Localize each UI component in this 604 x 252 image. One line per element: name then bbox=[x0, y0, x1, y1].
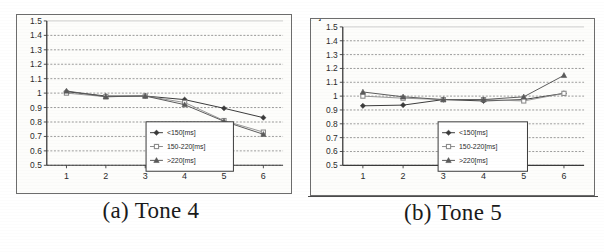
chart-b: 0.50.60.70.80.911.11.21.31.41.5123456F0[… bbox=[311, 19, 594, 195]
chart-a: 0.50.60.70.80.911.11.21.31.41.5123456F0 … bbox=[17, 15, 291, 193]
svg-text:150-220[ms]: 150-220[ms] bbox=[167, 143, 206, 151]
svg-text:1.1: 1.1 bbox=[326, 77, 338, 87]
svg-text:0.9: 0.9 bbox=[326, 105, 338, 115]
svg-text:>220[ms]: >220[ms] bbox=[459, 157, 488, 165]
svg-text:0.5: 0.5 bbox=[326, 160, 338, 170]
svg-text:1: 1 bbox=[37, 88, 42, 98]
svg-text:1: 1 bbox=[333, 91, 338, 101]
svg-text:0.9: 0.9 bbox=[30, 103, 42, 113]
chart-plot-area-b: 0.50.60.70.80.911.11.21.31.41.5123456F0[… bbox=[310, 18, 595, 196]
svg-text:1.4: 1.4 bbox=[326, 36, 338, 46]
svg-text:>220[ms]: >220[ms] bbox=[167, 157, 196, 165]
figure-panel-a: 0.50.60.70.80.911.11.21.31.41.5123456F0 … bbox=[0, 0, 302, 252]
svg-text:6: 6 bbox=[561, 171, 566, 181]
svg-text:<150[ms]: <150[ms] bbox=[459, 129, 488, 137]
svg-text:0.8: 0.8 bbox=[30, 117, 42, 127]
svg-text:4: 4 bbox=[481, 171, 486, 181]
figure-panel-b: 0.50.60.70.80.911.11.21.31.41.5123456F0[… bbox=[302, 0, 604, 252]
svg-text:6: 6 bbox=[261, 171, 266, 181]
svg-text:1.3: 1.3 bbox=[30, 45, 42, 55]
svg-text:1: 1 bbox=[64, 171, 69, 181]
panel-a-caption: (a) Tone 4 bbox=[0, 198, 302, 224]
svg-text:0.7: 0.7 bbox=[30, 131, 42, 141]
svg-text:1.3: 1.3 bbox=[326, 50, 338, 60]
svg-text:1.2: 1.2 bbox=[30, 59, 42, 69]
svg-text:5: 5 bbox=[521, 171, 526, 181]
svg-text:4: 4 bbox=[182, 171, 187, 181]
svg-text:3: 3 bbox=[143, 171, 148, 181]
svg-text:0.7: 0.7 bbox=[326, 133, 338, 143]
svg-text:5: 5 bbox=[221, 171, 226, 181]
svg-text:F0 Normalized: F0 Normalized bbox=[17, 15, 39, 16]
svg-text:0.6: 0.6 bbox=[30, 146, 42, 156]
svg-text:F0[Hz]: F0[Hz] bbox=[311, 19, 321, 21]
svg-text:0.8: 0.8 bbox=[326, 119, 338, 129]
svg-text:1.4: 1.4 bbox=[30, 30, 42, 40]
svg-text:150-220[ms]: 150-220[ms] bbox=[459, 143, 498, 151]
svg-text:2: 2 bbox=[401, 171, 406, 181]
svg-text:1.5: 1.5 bbox=[326, 22, 338, 32]
svg-text:1: 1 bbox=[360, 171, 365, 181]
svg-text:1.1: 1.1 bbox=[30, 74, 42, 84]
figure-container: 0.50.60.70.80.911.11.21.31.41.5123456F0 … bbox=[0, 0, 604, 252]
svg-text:0.6: 0.6 bbox=[326, 146, 338, 156]
svg-text:1.2: 1.2 bbox=[326, 63, 338, 73]
svg-text:2: 2 bbox=[103, 171, 108, 181]
panel-divider-rule bbox=[308, 196, 598, 197]
panel-b-caption: (b) Tone 5 bbox=[302, 200, 604, 226]
svg-text:3: 3 bbox=[441, 171, 446, 181]
svg-text:0.5: 0.5 bbox=[30, 160, 42, 170]
chart-plot-area-a: 0.50.60.70.80.911.11.21.31.41.5123456F0 … bbox=[16, 14, 292, 194]
svg-text:<150[ms]: <150[ms] bbox=[167, 129, 196, 137]
svg-text:1.5: 1.5 bbox=[30, 16, 42, 26]
